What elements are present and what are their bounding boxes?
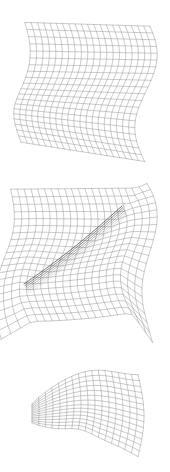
folded-sheet-wireframe <box>0 162 170 352</box>
pinched-lobe-wireframe <box>0 352 170 472</box>
three-panel-surface-mesh-figure <box>0 0 170 472</box>
wavy-sheet-wireframe <box>0 0 170 162</box>
panel-undeformed-wavy-sheet <box>0 0 170 162</box>
panel-folded-sheet-with-crease <box>0 162 170 352</box>
panel-pinched-lobe-surface <box>0 352 170 472</box>
